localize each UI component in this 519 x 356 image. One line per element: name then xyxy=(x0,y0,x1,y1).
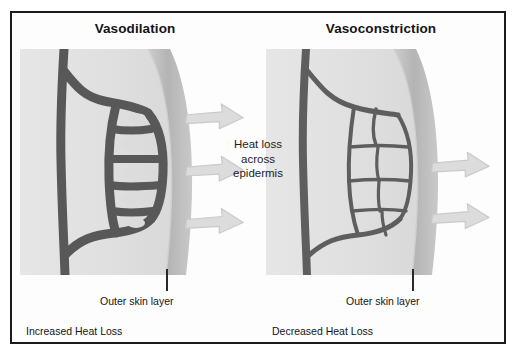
panel-vasoconstriction: Vasoconstriction xyxy=(258,13,504,342)
figure-frame: Vasodilation xyxy=(10,11,506,344)
heat-loss-annotation-line-1: Heat loss xyxy=(233,137,283,152)
panel-title-vasodilation: Vasodilation xyxy=(12,21,258,36)
heat-loss-annotation-line-2: across xyxy=(233,152,283,167)
heat-loss-annotation-line-3: epidermis xyxy=(233,166,283,181)
skin-cross-section-vasodilation xyxy=(20,49,202,275)
panel-title-vasoconstriction: Vasoconstriction xyxy=(258,21,504,36)
skin-leader-line-right xyxy=(412,269,414,291)
panel-vasodilation: Vasodilation xyxy=(12,13,258,342)
skin-leader-line-left xyxy=(166,269,168,291)
skin-cross-section-vasoconstriction xyxy=(266,49,448,275)
outer-skin-layer-label-right: Outer skin layer xyxy=(346,295,420,307)
outer-skin-layer-label-left: Outer skin layer xyxy=(100,295,174,307)
bottom-label-increased-heat-loss: Increased Heat Loss xyxy=(26,325,122,337)
bottom-label-decreased-heat-loss: Decreased Heat Loss xyxy=(272,325,373,337)
heat-loss-annotation: Heat loss across epidermis xyxy=(233,137,283,181)
